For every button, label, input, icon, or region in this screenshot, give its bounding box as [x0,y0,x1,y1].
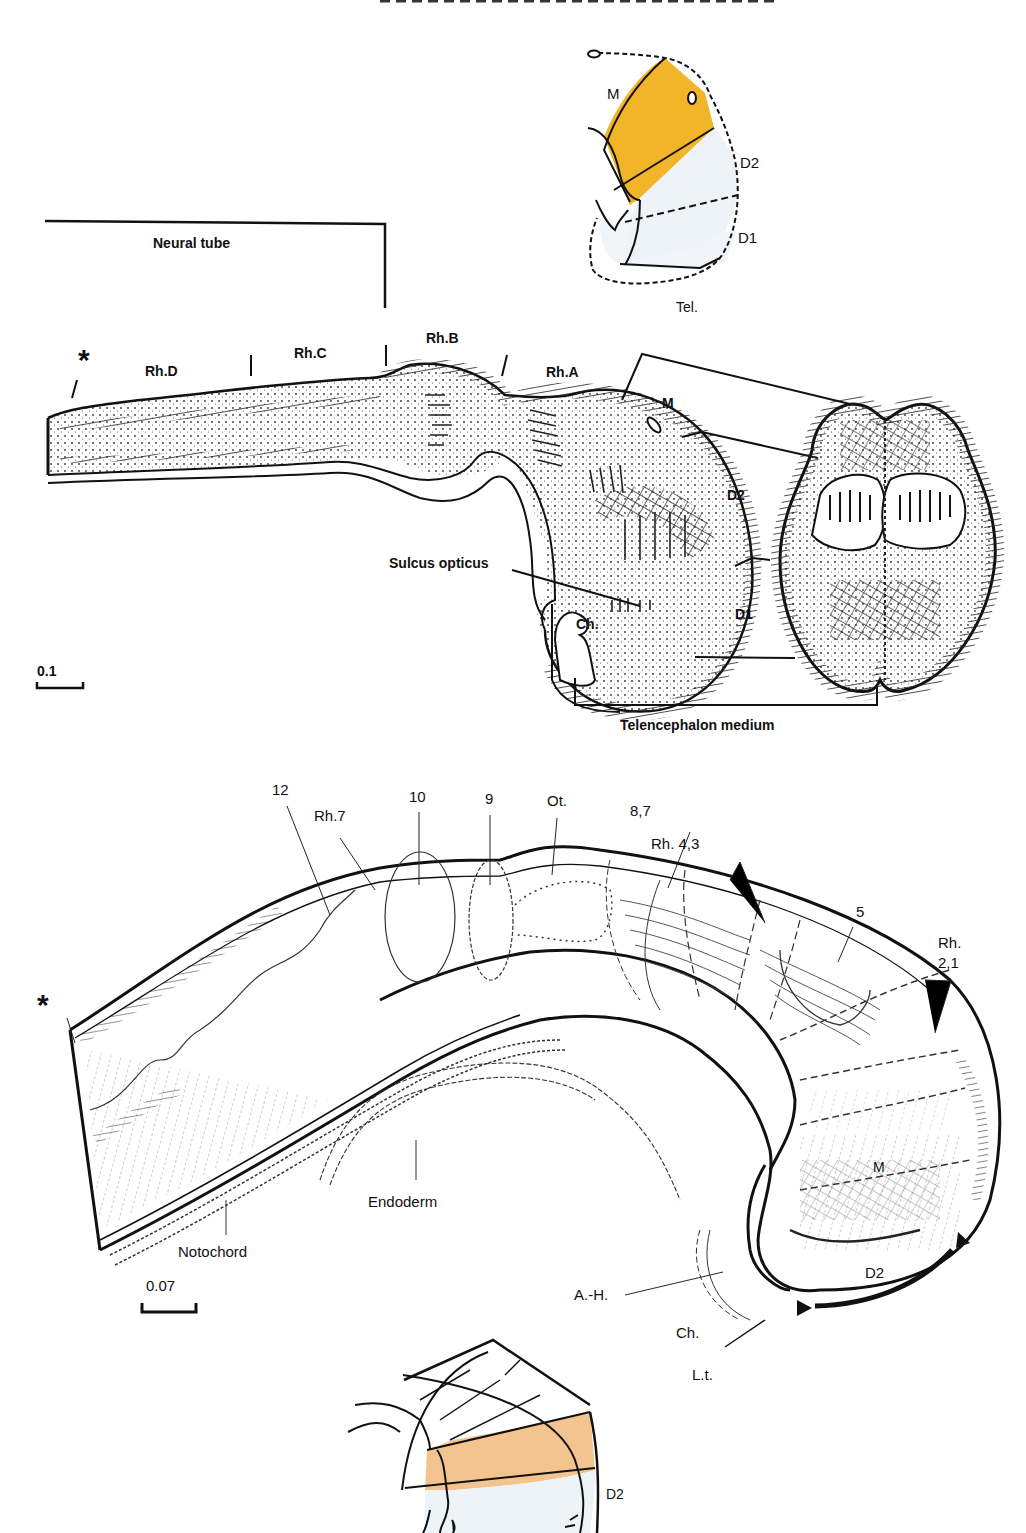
segment-rh-a: Rh.A [546,365,579,379]
scale-bar-b-label: 0.07 [146,1278,175,1293]
region-d1-label: D1 [735,607,753,621]
scale-bar-a [37,682,83,688]
region-d2-label: D2 [727,488,745,502]
lt-label: L.t. [692,1367,713,1382]
panel-b-embryo [67,806,1000,1347]
scale-bar-a-label: 0.1 [37,664,56,678]
ch-label: Ch. [676,1325,699,1340]
segment-rh-c: Rh.C [294,346,327,360]
label-2-1: 2,1 [938,955,959,970]
sulcus-opticus-label: Sulcus opticus [389,556,489,570]
panel-b-star: * [37,990,49,1020]
neural-tube-label: Neural tube [153,236,230,250]
ah-label: A.-H. [574,1287,608,1302]
region-ch-label: Ch. [576,617,599,631]
figure-drawing [0,0,1026,1533]
inset-a-label-d1: D1 [738,230,757,245]
panel-a-star: * [78,345,90,375]
scale-bar-b [142,1303,196,1312]
label-12: 12 [272,782,289,797]
panel-b-inset [348,1340,598,1533]
label-5: 5 [856,904,864,919]
label-ot: Ot. [547,793,567,808]
segment-rh-d: Rh.D [145,364,178,378]
inset-a-label-m: M [607,86,620,101]
label-rh: Rh. [938,935,961,950]
panel-b-region-m: M [873,1160,885,1174]
label-rh-7: Rh.7 [314,808,346,823]
inset-a-label-tel: Tel. [676,300,698,314]
notochord-label: Notochord [178,1244,247,1259]
region-m-label: M [662,396,674,410]
inset-b-label-d2: D2 [606,1487,624,1501]
panel-b-region-d2: D2 [865,1265,884,1280]
telencephalon-medium-label: Telencephalon medium [620,718,775,732]
panel-a-embryo [48,354,877,712]
label-8-7: 8,7 [630,803,651,818]
segment-rh-b: Rh.B [426,331,459,345]
panel-a-frontal-view [780,404,995,691]
label-9: 9 [485,791,493,806]
label-rh-4-3: Rh. 4,3 [651,836,699,851]
endoderm-label: Endoderm [368,1194,437,1209]
inset-a-label-d2: D2 [740,155,759,170]
label-10: 10 [409,789,426,804]
